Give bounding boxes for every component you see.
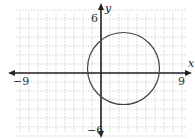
x-axis xyxy=(8,70,192,76)
y-max-tick-label: 6 xyxy=(91,12,98,25)
y-min-tick-label: −6 xyxy=(87,124,103,137)
x-min-tick-label: −9 xyxy=(13,75,29,88)
y-axis-label: y xyxy=(104,2,112,15)
y-axis-up-arrow-icon xyxy=(98,3,104,10)
x-max-tick-label: 9 xyxy=(178,75,185,88)
x-axis-right-arrow-icon xyxy=(185,70,192,76)
circle-curve xyxy=(88,33,160,105)
x-axis-label: x xyxy=(188,57,195,70)
coordinate-plane: x y −9 9 6 −6 xyxy=(0,0,195,139)
